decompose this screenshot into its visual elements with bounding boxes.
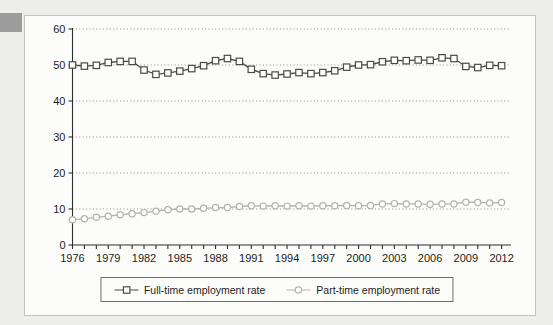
data-point-marker [224, 204, 230, 210]
data-point-marker [260, 70, 266, 76]
legend-item-full-time: Full-time employment rate [113, 284, 265, 296]
data-point-marker [165, 70, 171, 76]
data-point-marker [498, 63, 504, 69]
data-point-marker [367, 202, 373, 208]
full-time-marker-icon [113, 285, 139, 295]
data-point-marker [69, 217, 75, 223]
data-point-marker [117, 212, 123, 218]
data-point-marker [177, 68, 183, 74]
data-point-marker [391, 201, 397, 207]
data-point-marker [105, 59, 111, 65]
data-point-marker [320, 203, 326, 209]
data-point-marker [439, 55, 445, 61]
legend-label-part-time: Part-time employment rate [316, 284, 440, 296]
data-point-marker [141, 67, 147, 73]
data-point-marker [212, 204, 218, 210]
data-point-marker [153, 208, 159, 214]
part-time-marker-icon [285, 285, 311, 295]
data-point-marker [463, 63, 469, 69]
legend-label-full-time: Full-time employment rate [144, 284, 265, 296]
x-tick-label: 2009 [454, 252, 478, 264]
data-point-marker [308, 203, 314, 209]
x-tick-label: 2012 [489, 252, 513, 264]
data-point-marker [117, 58, 123, 64]
data-point-marker [403, 57, 409, 63]
x-tick-label: 1988 [203, 252, 227, 264]
data-point-marker [343, 64, 349, 70]
data-point-marker [487, 62, 493, 68]
x-tick-label: 1997 [311, 252, 335, 264]
data-point-marker [81, 216, 87, 222]
data-point-marker [236, 58, 242, 64]
data-point-marker [475, 64, 481, 70]
legend-item-part-time: Part-time employment rate [285, 284, 440, 296]
data-point-marker [165, 207, 171, 213]
y-tick-label: 10 [53, 203, 65, 215]
data-point-marker [272, 72, 278, 78]
x-tick-label: 2000 [346, 252, 370, 264]
data-point-marker [296, 203, 302, 209]
data-point-marker [296, 69, 302, 75]
data-point-marker [332, 203, 338, 209]
x-tick-label: 1994 [275, 252, 299, 264]
data-point-marker [344, 202, 350, 208]
data-point-marker [308, 70, 314, 76]
data-point-marker [272, 203, 278, 209]
data-point-marker [379, 59, 385, 65]
data-point-marker [284, 71, 290, 77]
data-point-marker [189, 206, 195, 212]
data-point-marker [487, 200, 493, 206]
data-point-marker [153, 71, 159, 77]
data-point-marker [320, 69, 326, 75]
y-tick-label: 50 [53, 59, 65, 71]
x-tick-label: 1976 [60, 252, 84, 264]
y-tick-label: 40 [53, 95, 65, 107]
data-point-marker [439, 201, 445, 207]
data-point-marker [463, 199, 469, 205]
data-point-marker [355, 203, 361, 209]
data-point-marker [367, 61, 373, 67]
data-point-marker [189, 65, 195, 71]
data-point-marker [415, 57, 421, 63]
data-point-marker [451, 201, 457, 207]
data-point-marker [69, 62, 75, 68]
data-point-marker [177, 206, 183, 212]
data-point-marker [379, 201, 385, 207]
data-point-marker [355, 62, 361, 68]
data-point-marker [201, 205, 207, 211]
data-point-marker [427, 57, 433, 63]
series-full-time [69, 55, 505, 79]
data-point-marker [403, 201, 409, 207]
x-tick-label: 1982 [132, 252, 156, 264]
data-point-marker [93, 214, 99, 220]
data-point-marker [129, 211, 135, 217]
data-point-marker [284, 203, 290, 209]
data-point-marker [129, 58, 135, 64]
data-point-marker [332, 68, 338, 74]
y-tick-label: 60 [53, 23, 65, 35]
x-tick-label: 1985 [168, 252, 192, 264]
data-point-marker [141, 210, 147, 216]
data-point-marker [391, 57, 397, 63]
chart-legend: Full-time employment rate Part-time empl… [100, 277, 453, 302]
data-point-marker [248, 203, 254, 209]
y-tick-label: 20 [53, 167, 65, 179]
data-point-marker [200, 63, 206, 69]
data-point-marker [451, 55, 457, 61]
x-tick-label: 1979 [96, 252, 120, 264]
data-point-marker [427, 201, 433, 207]
data-point-marker [499, 199, 505, 205]
data-point-marker [415, 201, 421, 207]
series-part-time [69, 199, 504, 223]
data-point-marker [260, 203, 266, 209]
data-point-marker [475, 199, 481, 205]
x-tick-label: 2003 [382, 252, 406, 264]
data-point-marker [81, 63, 87, 69]
data-point-marker [248, 66, 254, 72]
data-point-marker [93, 62, 99, 68]
x-tick-label: 1991 [239, 252, 263, 264]
data-point-marker [236, 203, 242, 209]
y-tick-label: 30 [53, 131, 65, 143]
x-tick-label: 2006 [418, 252, 442, 264]
data-point-marker [105, 213, 111, 219]
